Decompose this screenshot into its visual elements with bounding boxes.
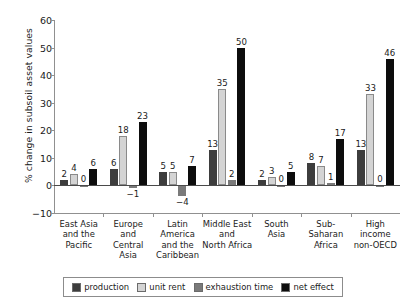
x-axis-tick-mark [103,213,104,217]
x-axis-category-label: SouthAsia [252,219,301,240]
bar-value-label: 33 [360,83,380,93]
y-axis-tick-label: 20 [0,125,52,136]
legend-swatch-icon [72,283,81,292]
y-axis-tick-label: 60 [0,15,52,26]
bar [169,172,177,186]
bar-chart: % change in subsoil asset values 6050403… [0,0,405,308]
x-axis-category-label: East Asiaand thePacific [54,219,103,250]
y-axis-tick-label: 0 [0,180,52,191]
x-axis-tick-mark [202,213,203,217]
x-axis-tick-mark [252,213,253,217]
bar [357,150,365,186]
legend-item[interactable]: net effect [281,282,333,292]
x-axis-tick-mark [351,213,352,217]
legend-label: production [84,282,129,292]
legend-label: net effect [293,282,333,292]
y-axis-tick-label: 10 [0,152,52,163]
legend-swatch-icon [281,283,290,292]
bar-value-label: 23 [133,111,153,121]
bar [178,185,186,196]
bar [159,172,167,186]
x-axis-tick-mark [153,213,154,217]
bar-value-label: 46 [380,48,400,58]
bar [110,169,118,186]
bar-value-label: 7 [182,155,202,165]
bar [188,166,196,185]
bar [287,172,295,186]
bar-value-label: 5 [163,161,183,171]
y-axis-tick-label: 30 [0,97,52,108]
x-axis-category-label: Sub-SaharanAfrica [301,219,350,250]
legend-label: unit rent [149,282,185,292]
bar [386,59,394,186]
legend-item[interactable]: unit rent [137,282,185,292]
bar-value-label: 18 [113,125,133,135]
x-axis-category-label: EuropeandCentralAsia [103,219,152,261]
y-axis-tick-label: 50 [0,42,52,53]
legend-swatch-icon [137,283,146,292]
bar [139,122,147,185]
chart-legend: productionunit rentexhaustion timenet ef… [63,277,343,297]
bar-value-label: 6 [83,158,103,168]
legend-label: exhaustion time [206,282,274,292]
x-axis-line [54,213,400,214]
bar-value-label: 17 [330,128,350,138]
bar [209,150,217,186]
bar [336,139,344,186]
bar-value-label: 5 [281,161,301,171]
bar-value-label: −1 [123,189,143,199]
x-axis-category-label: LatinAmericaand theCaribbean [153,219,202,261]
y-axis-tick-label: 40 [0,70,52,81]
bar [89,169,97,186]
y-axis-tick-label: −10 [0,208,52,219]
bar [366,94,374,185]
bar-value-label: 7 [311,155,331,165]
x-axis-category-label: Middle EastandNorth Africa [202,219,251,250]
x-axis-category-label: Highincomenon-OECD [351,219,400,250]
zero-baseline [54,185,400,186]
bar [307,163,315,185]
bar [119,136,127,186]
bar-value-label: 35 [212,78,232,88]
legend-item[interactable]: production [72,282,129,292]
bar-value-label: 50 [231,37,251,47]
x-axis-tick-mark [301,213,302,217]
bar-value-label: 4 [64,163,84,173]
bar [237,48,245,186]
legend-swatch-icon [194,283,203,292]
y-axis-tick-mark [50,213,55,214]
legend-item[interactable]: exhaustion time [194,282,274,292]
bar-value-label: −4 [172,197,192,207]
